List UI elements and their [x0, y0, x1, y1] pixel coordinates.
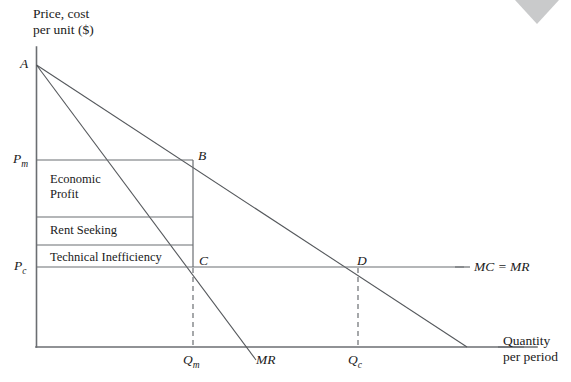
figure-canvas: Price, costper unit ($) Quantityper peri…	[0, 0, 571, 382]
demand-curve	[37, 65, 468, 347]
price-tick-pc: Pc	[14, 258, 26, 277]
y-axis-title-line2: per unit ($)	[33, 22, 94, 37]
chevron-down-icon	[515, 0, 559, 24]
quantity-tick-qm-sub: m	[193, 360, 200, 370]
curve-label-mc-equals-mr: MC = MR	[474, 259, 530, 275]
quantity-tick-qm: Qm	[183, 352, 200, 371]
region-label-technical-inefficiency: Technical Inefficiency	[50, 250, 162, 265]
y-axis-title-line1: Price, cost	[33, 6, 89, 21]
region-label-economic-profit: EconomicProfit	[50, 172, 101, 202]
point-label-d: D	[357, 253, 367, 269]
region-label-economic-profit-line2: Profit	[50, 187, 78, 201]
region-label-rent-seeking: Rent Seeking	[50, 223, 117, 238]
curve-label-mr: MR	[256, 352, 276, 368]
quantity-tick-qc-sub: c	[358, 360, 362, 370]
price-tick-pc-base: P	[14, 258, 22, 273]
point-label-a: A	[20, 56, 28, 72]
region-label-economic-profit-line1: Economic	[50, 172, 101, 186]
quantity-tick-qm-base: Q	[183, 352, 193, 367]
quantity-tick-qc-base: Q	[348, 352, 358, 367]
x-axis-title: Quantityper period	[503, 333, 558, 365]
price-tick-pm: Pm	[13, 151, 28, 170]
price-tick-pc-sub: c	[22, 266, 26, 276]
marginal-revenue-curve	[37, 65, 257, 360]
point-label-c: C	[199, 253, 208, 269]
x-axis-title-line1: Quantity	[503, 333, 550, 348]
axes	[36, 47, 537, 347]
y-axis-title: Price, costper unit ($)	[33, 6, 94, 38]
quantity-tick-qc: Qc	[348, 352, 362, 371]
x-axis-title-line2: per period	[503, 349, 558, 364]
price-tick-pm-sub: m	[21, 159, 28, 169]
price-tick-pm-base: P	[13, 151, 21, 166]
point-label-b: B	[198, 148, 206, 164]
